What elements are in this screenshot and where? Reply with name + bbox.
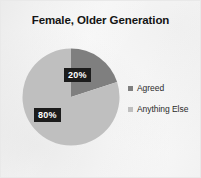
chart-title: Female, Older Generation xyxy=(1,14,200,26)
pie-plot-area xyxy=(22,48,120,146)
chart-legend: Agreed Anything Else xyxy=(128,83,198,125)
legend-label-agreed: Agreed xyxy=(137,83,164,93)
legend-swatch-icon-anything-else xyxy=(128,107,133,112)
pie-slice-value-label-agreed: 20% xyxy=(64,68,91,82)
pie-chart-figure: Female, Older Generation 20% 80% Agreed … xyxy=(0,0,201,178)
legend-item-anything-else[interactable]: Anything Else xyxy=(128,104,198,114)
legend-swatch-icon-agreed xyxy=(128,86,133,91)
pie-slice-value-label-anything-else: 80% xyxy=(34,108,61,122)
legend-item-agreed[interactable]: Agreed xyxy=(128,83,198,93)
legend-label-anything-else: Anything Else xyxy=(137,104,188,114)
pie-svg xyxy=(22,48,120,146)
